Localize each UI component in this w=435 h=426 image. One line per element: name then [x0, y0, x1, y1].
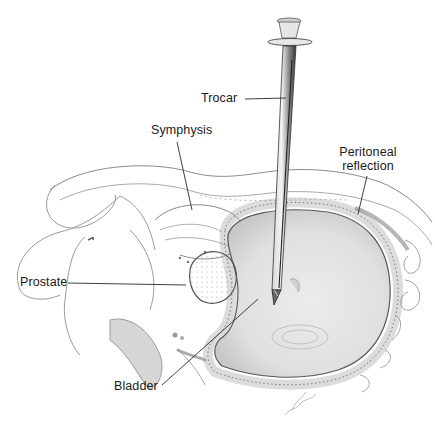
peritoneal-reflection-label: Peritoneal reflection — [332, 145, 404, 173]
bladder-label: Bladder — [114, 379, 158, 393]
peritoneal-label-line1: Peritoneal — [332, 145, 404, 159]
pelvis-illustration — [0, 0, 435, 426]
anatomical-figure: Trocar Symphysis Peritoneal reflection P… — [0, 0, 435, 426]
trocar-leader-line — [245, 98, 286, 99]
peritoneal-label-line2: reflection — [332, 159, 404, 173]
prostate-leader-line — [68, 283, 186, 285]
prostate — [190, 252, 237, 304]
symphysis-label: Symphysis — [151, 123, 212, 137]
symphysis-leader-line — [177, 142, 192, 210]
peritoneal-leader-line — [358, 176, 367, 214]
bladder — [215, 210, 390, 377]
trocar-label: Trocar — [201, 91, 237, 105]
artist-signature — [285, 392, 316, 415]
prostate-label: Prostate — [20, 275, 67, 289]
